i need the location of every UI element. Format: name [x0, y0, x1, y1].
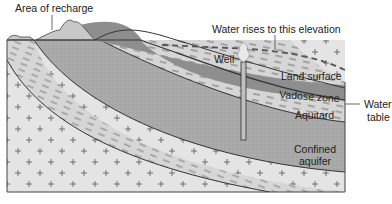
label-area-of-recharge: Area of recharge [15, 2, 93, 14]
label-confined: Confined [294, 143, 336, 155]
label-water-table-1: Water [364, 98, 392, 110]
label-aquifer: aquifer [299, 155, 332, 167]
label-well: Well [214, 53, 234, 65]
label-land-surface: Land surface [281, 70, 342, 82]
aquifer-diagram: Area of recharge Water rises to this ele… [0, 0, 392, 204]
label-water-rises: Water rises to this elevation [212, 23, 341, 35]
label-aquitard: Aquitard [295, 109, 334, 121]
well-casing [241, 62, 246, 140]
label-water-table-2: table [367, 111, 390, 123]
recharge-hill [36, 20, 95, 40]
